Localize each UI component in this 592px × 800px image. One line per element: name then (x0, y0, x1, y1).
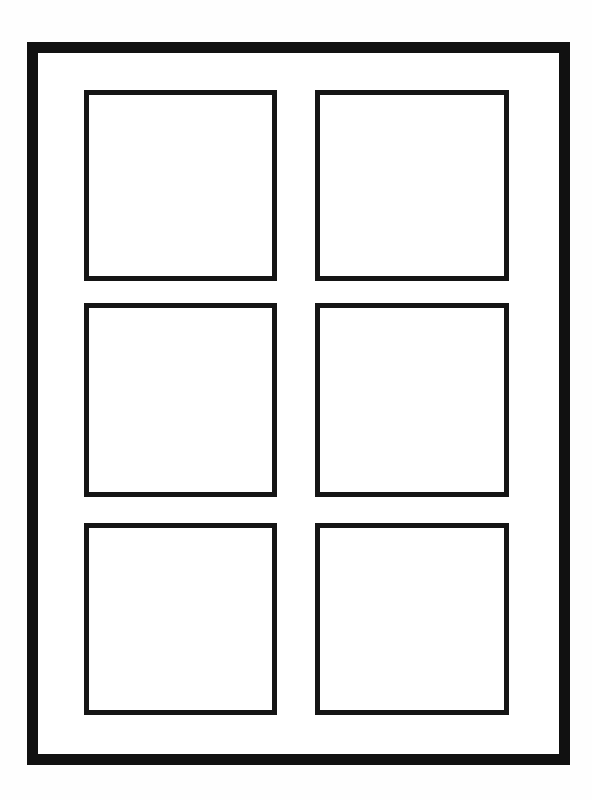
grid-cell-r2-c1 (84, 303, 277, 497)
grid-cell-r1-c2 (315, 90, 509, 281)
grid-cell-r3-c2 (315, 523, 509, 715)
grid-cell-r3-c1 (84, 523, 277, 715)
grid-cell-r1-c1 (84, 90, 277, 281)
grid-cell-r2-c2 (315, 303, 509, 497)
document-page (0, 0, 592, 800)
